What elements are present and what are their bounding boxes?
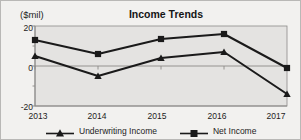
- square-marker: [158, 36, 164, 42]
- square-marker: [221, 31, 227, 37]
- plot-area: [1, 1, 301, 140]
- legend-label-underwriting-income: Underwriting Income: [79, 126, 157, 136]
- triangle-marker-icon: [45, 125, 75, 136]
- legend-entry-net-income: Net Income: [179, 125, 256, 136]
- legend-entry-underwriting-income: Underwriting Income: [45, 125, 157, 136]
- chart-legend: Underwriting Income Net Income: [45, 124, 265, 137]
- square-marker-icon: [179, 125, 209, 136]
- square-marker: [32, 37, 38, 43]
- square-marker: [284, 65, 290, 71]
- chart-frame: ($mil) Income Trends 20 0 -20 2013 2014 …: [0, 0, 301, 140]
- square-marker: [95, 51, 101, 57]
- legend-label-net-income: Net Income: [213, 126, 256, 136]
